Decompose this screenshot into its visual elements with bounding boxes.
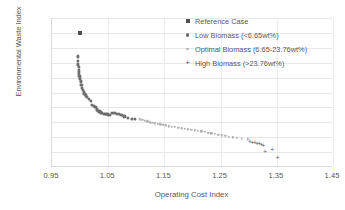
- small-circle-marker-icon: [183, 45, 192, 54]
- data-point: [204, 131, 206, 133]
- data-point: [197, 130, 199, 132]
- data-point: [177, 126, 179, 128]
- data-point: [200, 130, 202, 132]
- y-gridline: [52, 78, 332, 79]
- data-point: [193, 129, 195, 131]
- x-gridline: [108, 18, 109, 166]
- y-gridline: [52, 93, 332, 94]
- legend-item[interactable]: +High Biomass (>23.76wt%): [183, 56, 343, 70]
- data-point: [89, 99, 92, 102]
- circle-marker-icon: [183, 31, 192, 40]
- y-gridline: [52, 137, 332, 138]
- x-tick-label: 1.25: [198, 171, 242, 180]
- data-point: [210, 132, 212, 134]
- legend-item[interactable]: Low Biomass (<6.65wt%): [183, 28, 343, 42]
- data-point: [190, 129, 192, 131]
- data-point: [126, 116, 129, 119]
- data-point: [270, 146, 275, 151]
- x-tick-label: 1.05: [85, 171, 129, 180]
- x-tick-label: 1.35: [254, 171, 298, 180]
- data-point: [263, 148, 268, 153]
- data-point: [184, 128, 186, 130]
- data-point: [134, 117, 137, 120]
- x-tick-label: 1.45: [310, 171, 345, 180]
- y-gridline: [52, 122, 332, 123]
- legend-item[interactable]: Optimal Biomass (6.65-23.76wt%): [183, 42, 343, 56]
- legend-label: Optimal Biomass (6.65-23.76wt%): [195, 45, 307, 54]
- x-tick-label: 0.95: [29, 171, 73, 180]
- scatter-chart: Environmental Waste Index 0.820.840.860.…: [0, 0, 345, 210]
- legend-label: Reference Case: [195, 17, 248, 26]
- data-point: [275, 154, 280, 159]
- legend-label: High Biomass (>23.76wt%): [195, 59, 284, 68]
- data-point: [187, 128, 189, 130]
- legend-label: Low Biomass (<6.65wt%): [195, 31, 279, 40]
- plus-marker-icon: +: [183, 59, 192, 68]
- y-axis-title: Environmental Waste Index: [14, 0, 23, 127]
- data-point: [171, 125, 173, 127]
- y-gridline: [52, 152, 332, 153]
- square-marker-icon: [183, 17, 192, 26]
- legend-item[interactable]: Reference Case: [183, 14, 343, 28]
- x-gridline: [164, 18, 165, 166]
- data-point: [217, 133, 219, 135]
- data-point: [180, 127, 182, 129]
- data-point: [174, 126, 176, 128]
- x-axis-title: Operating Cost Index: [51, 190, 332, 199]
- data-point: [214, 133, 216, 135]
- x-tick-label: 1.15: [141, 171, 185, 180]
- data-point: [78, 31, 82, 35]
- data-point: [76, 55, 79, 58]
- chart-legend: Reference CaseLow Biomass (<6.65wt%)Opti…: [183, 14, 343, 70]
- data-point: [207, 131, 209, 133]
